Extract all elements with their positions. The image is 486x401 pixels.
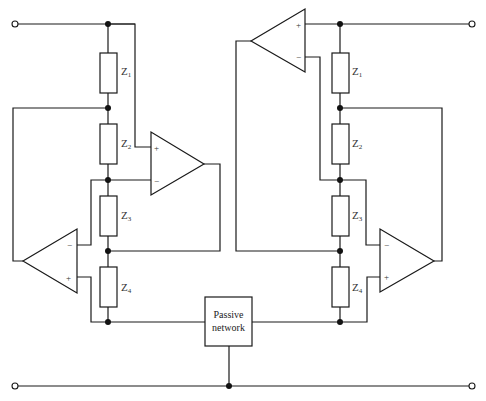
bottom-rail — [12, 383, 475, 389]
left-lower-plus: + — [66, 273, 71, 283]
right-lower-opamp — [380, 229, 434, 292]
passive-network-label-2: network — [212, 322, 245, 333]
left-upper-minus: − — [154, 176, 159, 186]
left-z4-label: Z4 — [121, 281, 132, 295]
right-upper-minus: − — [296, 52, 301, 62]
left-z4-resistor — [100, 267, 117, 307]
right-z1-label: Z1 — [352, 65, 363, 79]
left-lower-opamp — [23, 229, 77, 293]
right-z4-resistor — [332, 267, 349, 307]
right-z3-label: Z3 — [352, 209, 363, 223]
left-z1-resistor — [100, 53, 117, 93]
right-bottom-terminal — [469, 383, 475, 389]
right-upper-plus: + — [296, 20, 301, 30]
left-z3-label: Z3 — [121, 209, 132, 223]
right-branch: Z1 Z2 Z3 Z4 + − − + — [236, 9, 442, 325]
right-z3-resistor — [332, 196, 349, 236]
left-lower-minus: − — [67, 240, 72, 250]
right-z2-resistor — [332, 124, 349, 164]
top-right-rail — [305, 21, 475, 27]
left-branch: Z1 Z2 Z3 Z4 + − − + — [13, 21, 220, 325]
left-upper-plus: + — [154, 143, 159, 153]
right-z2-label: Z2 — [352, 137, 363, 151]
circuit-diagram: Z1 Z2 Z3 Z4 + − − + — [0, 0, 486, 401]
left-z2-label: Z2 — [121, 137, 132, 151]
left-top-terminal — [12, 21, 18, 27]
right-z4-label: Z4 — [352, 281, 363, 295]
right-top-terminal — [469, 21, 475, 27]
passive-network-label-1: Passive — [214, 309, 245, 320]
left-bottom-terminal — [12, 383, 18, 389]
right-upper-opamp — [251, 9, 305, 72]
left-z1-label: Z1 — [121, 65, 132, 79]
right-lower-minus: − — [384, 240, 389, 250]
left-z2-resistor — [100, 124, 117, 164]
left-z3-resistor — [100, 196, 117, 236]
passive-network-block: Passive network — [205, 297, 252, 386]
right-z1-resistor — [332, 53, 349, 93]
right-lower-plus: + — [384, 272, 389, 282]
